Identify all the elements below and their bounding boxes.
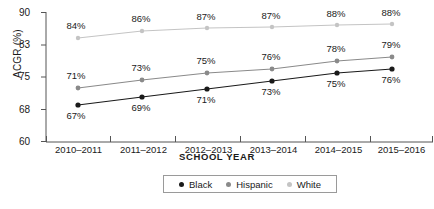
data-point-hispanic-5 — [390, 55, 395, 60]
data-point-white-2 — [205, 26, 209, 30]
data-point-hispanic-3 — [270, 67, 275, 72]
legend-label-white: White — [297, 179, 321, 190]
data-label-white-4: 88% — [326, 8, 345, 19]
data-label-hispanic-3: 76% — [261, 51, 280, 62]
data-point-hispanic-2 — [205, 71, 210, 76]
chart-legend: Black Hispanic White — [163, 175, 337, 193]
data-label-white-5: 88% — [381, 7, 400, 18]
data-label-black-4: 75% — [326, 78, 345, 89]
data-label-white-1: 86% — [131, 13, 150, 24]
data-label-hispanic-4: 78% — [326, 43, 345, 54]
data-label-white-2: 87% — [196, 11, 215, 22]
data-point-hispanic-1 — [140, 78, 145, 83]
data-point-black-3 — [269, 78, 274, 83]
data-label-white-3: 87% — [261, 10, 280, 21]
data-point-white-4 — [335, 23, 339, 27]
legend-marker-white-icon — [287, 182, 292, 187]
data-point-black-0 — [75, 102, 80, 107]
data-point-black-2 — [204, 86, 209, 91]
data-point-white-1 — [140, 29, 144, 33]
data-point-hispanic-4 — [335, 59, 340, 64]
data-label-black-3: 73% — [261, 86, 280, 97]
data-label-hispanic-5: 79% — [381, 39, 400, 50]
data-point-white-0 — [76, 36, 80, 40]
legend-marker-hispanic-icon — [226, 182, 231, 187]
legend-item-hispanic[interactable]: Hispanic — [226, 179, 272, 190]
series-white-line — [76, 22, 394, 40]
data-point-black-4 — [334, 70, 339, 75]
legend-label-black: Black — [189, 179, 212, 190]
legend-label-hispanic: Hispanic — [236, 179, 272, 190]
data-point-hispanic-0 — [76, 86, 81, 91]
axis-lines — [41, 12, 433, 142]
data-point-white-5 — [390, 22, 394, 26]
data-label-white-0: 84% — [66, 20, 85, 31]
data-label-black-2: 71% — [196, 94, 215, 105]
data-label-black-0: 67% — [66, 110, 85, 121]
data-label-black-5: 76% — [381, 74, 400, 85]
legend-item-white[interactable]: White — [287, 179, 321, 190]
data-point-white-3 — [270, 25, 274, 29]
data-label-black-1: 69% — [131, 102, 150, 113]
series-black-line — [75, 66, 394, 107]
data-point-black-1 — [139, 94, 144, 99]
data-point-black-5 — [389, 66, 394, 71]
legend-marker-black-icon — [179, 182, 184, 187]
legend-item-black[interactable]: Black — [179, 179, 212, 190]
data-label-hispanic-2: 75% — [196, 55, 215, 66]
data-label-hispanic-0: 71% — [66, 70, 85, 81]
data-label-hispanic-1: 73% — [131, 62, 150, 73]
acgr-line-chart: ACGR (%) 90 83 75 68 60 — [0, 0, 434, 209]
x-axis-title: SCHOOL YEAR — [0, 151, 434, 162]
